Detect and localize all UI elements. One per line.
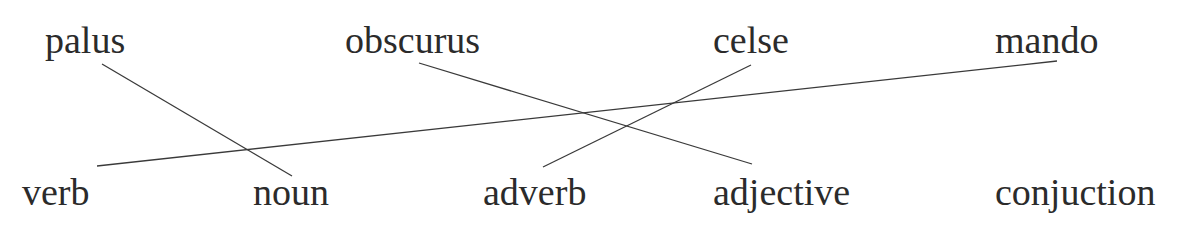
word-palus[interactable]: palus bbox=[45, 19, 125, 61]
latin-words-row: palusobscuruscelsemando bbox=[45, 19, 1098, 61]
word-conjuction[interactable]: conjuction bbox=[995, 171, 1155, 213]
word-verb[interactable]: verb bbox=[22, 171, 90, 213]
word-mando[interactable]: mando bbox=[995, 19, 1098, 61]
connection-lines bbox=[97, 61, 1057, 176]
connection-line-obscurus-adjective[interactable] bbox=[419, 63, 752, 164]
word-celse[interactable]: celse bbox=[713, 19, 789, 61]
connection-line-palus-noun[interactable] bbox=[102, 64, 292, 176]
word-adjective[interactable]: adjective bbox=[713, 171, 850, 213]
word-noun[interactable]: noun bbox=[253, 171, 329, 213]
word-obscurus[interactable]: obscurus bbox=[345, 19, 480, 61]
connection-line-celse-adverb[interactable] bbox=[543, 65, 751, 167]
matching-diagram: palusobscuruscelsemando verbnounadverbad… bbox=[0, 0, 1191, 225]
word-adverb[interactable]: adverb bbox=[483, 171, 586, 213]
parts-of-speech-row: verbnounadverbadjectiveconjuction bbox=[22, 171, 1155, 213]
